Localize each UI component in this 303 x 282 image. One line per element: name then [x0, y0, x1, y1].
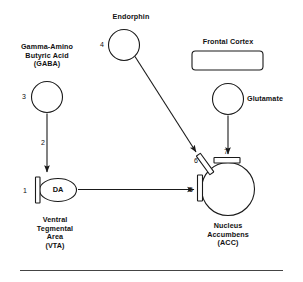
acc-marker-7-label: 7	[224, 148, 228, 155]
diagram-canvas: Gamma-Amino Butyric Acid (GABA) 3 Endorp…	[0, 0, 303, 282]
endorphin-marker-4-label: 4	[100, 41, 104, 48]
vta-da-node-label: DA	[53, 186, 64, 193]
vta-receptor-1-bar	[36, 177, 41, 203]
acc-receptor-6-bar	[196, 153, 214, 175]
gaba-cell-circle	[32, 82, 63, 113]
gaba-marker-3-label: 3	[22, 93, 26, 100]
vta-label: Ventral Tegmental Area (VTA)	[37, 216, 73, 250]
acc-receptor-7-bar	[214, 158, 240, 164]
frontal-cortex-box	[192, 51, 263, 70]
gaba-label: Gamma-Amino Butyric Acid (GABA)	[21, 43, 73, 69]
arrow-gaba-to-vta-marker-2-label: 2	[41, 139, 45, 146]
acc-marker-6-label: 6	[194, 157, 198, 164]
endorphin-cell-circle	[109, 30, 140, 61]
glutamate-label: Glutamate	[247, 95, 283, 104]
acc-marker-5-label: 5	[189, 186, 193, 193]
acc-label: Nucleus Accumbens (ACC)	[207, 222, 249, 248]
vta-marker-1-label: 1	[23, 187, 27, 194]
glutamate-cell-circle	[213, 84, 244, 115]
acc-receptor-5-bar	[198, 175, 203, 201]
endorphin-label: Endorphin	[113, 13, 150, 22]
frontal-cortex-label: Frontal Cortex	[203, 38, 254, 47]
arrow-endorphin-to-acc	[135, 57, 196, 153]
